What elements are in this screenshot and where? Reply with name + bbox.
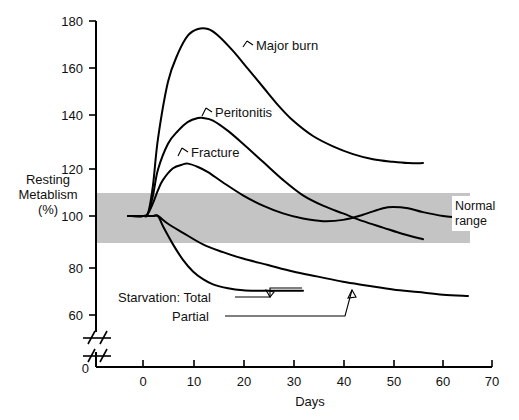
- y-axis-ticks: [89, 21, 96, 315]
- y-axis-title-line-2: Metablism: [18, 187, 77, 202]
- y-tick-label-80: 80: [69, 261, 83, 276]
- x-tick-label-20: 20: [237, 374, 251, 389]
- y-origin-label: 0: [82, 361, 89, 376]
- series-label-peritonitis: Peritonitis: [215, 105, 273, 120]
- y-tick-label-100: 100: [61, 209, 83, 224]
- chart-root: 180 160 140 120 100 80 60 0 0 10 20 30 4…: [0, 0, 519, 420]
- x-tick-label-10: 10: [187, 374, 201, 389]
- y-tick-label-60: 60: [69, 308, 83, 323]
- resting-metabolism-chart: 180 160 140 120 100 80 60 0 0 10 20 30 4…: [0, 0, 519, 420]
- x-axis-ticks: [143, 360, 492, 367]
- x-tick-label-50: 50: [387, 374, 401, 389]
- y-tick-label-180: 180: [61, 14, 83, 29]
- x-tick-label-30: 30: [287, 374, 301, 389]
- series-label-major-burn: Major burn: [256, 38, 318, 53]
- x-tick-label-60: 60: [436, 374, 450, 389]
- series-label-starvation-total: Starvation: Total: [118, 290, 211, 305]
- y-axis-title-line-3: (%): [38, 202, 58, 217]
- series-curves: [128, 28, 468, 296]
- series-label-starvation-partial: Partial: [172, 309, 209, 324]
- normal-range-label-line-2: range: [455, 214, 487, 228]
- series-label-fracture: Fracture: [191, 145, 239, 160]
- y-axis-title-line-1: Resting: [26, 172, 70, 187]
- callout-leaders: [178, 41, 356, 316]
- x-tick-label-70: 70: [485, 374, 499, 389]
- series-curve-major-burn: [128, 28, 423, 216]
- y-tick-label-140: 140: [61, 108, 83, 123]
- x-axis-title: Days: [295, 394, 325, 409]
- y-tick-label-160: 160: [61, 61, 83, 76]
- x-tick-label-40: 40: [337, 374, 351, 389]
- normal-range-label-line-1: Normal: [455, 199, 495, 213]
- x-tick-label-0: 0: [139, 374, 146, 389]
